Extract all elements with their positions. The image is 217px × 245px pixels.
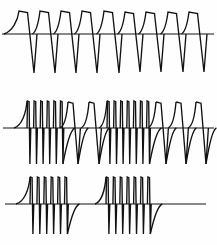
pulse-1-8 <box>161 12 187 72</box>
spike-2-4-6 <box>140 101 144 164</box>
spike-2-1-3 <box>40 101 44 164</box>
panel-3-two-spike-bursts <box>5 177 206 234</box>
pulse-1-5 <box>97 11 123 73</box>
spike-2-1-1 <box>27 101 31 164</box>
recovery-2-1 <box>63 128 75 164</box>
lead-in-2-1 <box>14 101 27 128</box>
panel-2-mixed-burst-and-single-pulses <box>3 101 216 164</box>
lead-in-2-6 <box>168 102 176 128</box>
lead-in-2-3 <box>81 102 89 128</box>
spike-3-2-1 <box>106 177 110 234</box>
recovery-3-2 <box>150 204 162 234</box>
spike-3-2-5 <box>134 177 138 234</box>
group-2-5-single <box>148 102 176 164</box>
spike-3-1-2 <box>37 177 41 234</box>
group-2-7-single <box>188 102 216 164</box>
spike-2-1-5 <box>53 101 57 164</box>
spike-3-1-3 <box>44 177 48 234</box>
pulse-1-1 <box>4 11 37 73</box>
spike-3-2-4 <box>127 177 131 234</box>
spike-2-4-2 <box>114 101 118 164</box>
group-2-6-single <box>168 102 196 164</box>
lead-in-2-4 <box>99 101 107 128</box>
spike-3-1-6 <box>65 177 69 234</box>
recovery-2-4 <box>150 128 162 164</box>
spike-3-2-2 <box>113 177 117 234</box>
spike-3-2-6 <box>141 177 145 234</box>
waveform-figure <box>0 0 217 245</box>
spike-3-1-5 <box>58 177 62 234</box>
broad-pulse-2-3 <box>89 102 101 164</box>
spike-2-1-2 <box>34 101 38 164</box>
spike-2-4-3 <box>120 101 124 164</box>
spike-2-1-6 <box>60 101 64 164</box>
spike-3-1-1 <box>30 177 34 234</box>
broad-pulse-2-2 <box>68 102 80 164</box>
spike-2-4-1 <box>107 101 111 164</box>
broad-pulse-2-6 <box>176 102 188 164</box>
lead-in-3-1 <box>16 177 30 204</box>
lead-in-3-2 <box>95 177 106 204</box>
lead-in-2-2 <box>60 102 68 128</box>
group-3-2-burst <box>95 177 162 234</box>
panel-1-regular-pulse-train <box>2 11 214 73</box>
spike-2-4-7 <box>147 101 151 164</box>
spike-3-1-4 <box>51 177 55 234</box>
spike-3-2-7 <box>147 177 151 234</box>
recovery-3-1 <box>67 204 79 234</box>
waveform-svg <box>0 0 217 245</box>
panel-layer <box>2 11 216 234</box>
lead-in-2-7 <box>188 102 196 128</box>
spike-2-4-4 <box>127 101 131 164</box>
group-2-1-burst <box>14 101 75 164</box>
group-3-1-burst <box>16 177 79 234</box>
spike-2-1-4 <box>47 101 51 164</box>
group-2-4-burst <box>99 101 162 164</box>
spike-3-2-3 <box>120 177 124 234</box>
spike-2-4-5 <box>133 101 137 164</box>
broad-pulse-2-7 <box>196 102 208 164</box>
